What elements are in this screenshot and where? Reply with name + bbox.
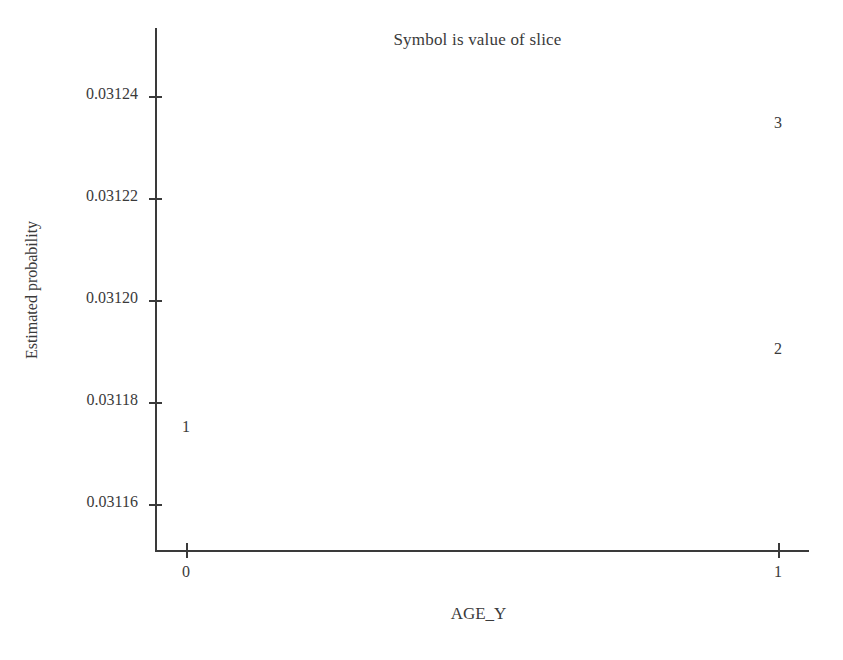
chart-page: Symbol is value of slice 0.03124 0.03122… [0, 0, 843, 660]
data-point-marker: 3 [763, 112, 793, 134]
data-point-marker: 2 [763, 338, 793, 360]
data-point-marker: 1 [171, 416, 201, 438]
plot-area: 1 2 3 [0, 0, 843, 660]
